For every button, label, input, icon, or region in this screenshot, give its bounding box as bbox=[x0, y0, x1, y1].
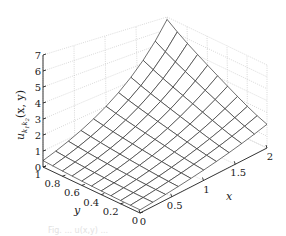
y-axis-label: y bbox=[73, 204, 81, 217]
svg-text:4: 4 bbox=[35, 98, 41, 109]
svg-text:1: 1 bbox=[35, 146, 41, 157]
surface-plot: 0123456700.511.5200.20.40.60.81 x y uk1k… bbox=[0, 0, 286, 236]
svg-text:0: 0 bbox=[132, 215, 138, 226]
svg-text:0.8: 0.8 bbox=[44, 178, 60, 189]
svg-text:uk1k2(x, y): uk1k2(x, y) bbox=[14, 90, 30, 140]
z-axis-label: uk1k2(x, y) bbox=[14, 90, 30, 140]
svg-text:2: 2 bbox=[35, 130, 41, 141]
svg-text:3: 3 bbox=[35, 114, 41, 125]
svg-text:0.4: 0.4 bbox=[83, 197, 99, 208]
svg-text:0.2: 0.2 bbox=[103, 206, 119, 217]
svg-text:1: 1 bbox=[203, 184, 209, 195]
svg-text:5: 5 bbox=[35, 82, 41, 93]
svg-text:6: 6 bbox=[35, 66, 41, 77]
svg-text:1.5: 1.5 bbox=[230, 167, 246, 178]
svg-text:0.5: 0.5 bbox=[167, 200, 183, 211]
svg-text:7: 7 bbox=[35, 50, 41, 61]
svg-text:2: 2 bbox=[267, 151, 273, 162]
x-axis-label: x bbox=[226, 190, 233, 203]
figure-caption: Fig. ... u(x,y) ... bbox=[48, 226, 286, 236]
svg-text:0.6: 0.6 bbox=[64, 187, 80, 198]
surface-mesh bbox=[43, 19, 267, 209]
svg-text:1: 1 bbox=[35, 169, 41, 180]
